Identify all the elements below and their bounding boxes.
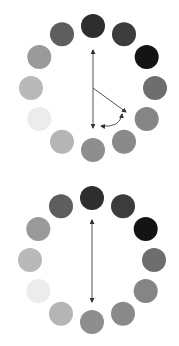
gray-dot-1: [112, 22, 136, 46]
gray-dot-3: [142, 248, 166, 272]
gray-dot-3: [143, 76, 167, 100]
color-wheel-diagram: [0, 0, 179, 346]
gray-dot-11: [49, 194, 73, 218]
gray-dot-5: [112, 130, 136, 154]
gray-dot-5: [111, 302, 135, 326]
bottom-clock-dial: [18, 186, 166, 334]
gray-dot-11: [50, 22, 74, 46]
gray-dot-1: [111, 194, 135, 218]
gray-dot-7: [49, 302, 73, 326]
gray-dot-6: [80, 310, 104, 334]
gray-dot-8: [26, 279, 50, 303]
gray-dot-8: [27, 107, 51, 131]
gray-dot-9: [18, 248, 42, 272]
gray-dot-4: [135, 107, 159, 131]
gray-dot-0: [80, 186, 104, 210]
gray-dot-0: [81, 14, 105, 38]
diagonal-arrow: [93, 88, 126, 112]
gray-dot-2: [134, 217, 158, 241]
top-clock-dial: [19, 14, 167, 162]
gray-dot-6: [81, 138, 105, 162]
gray-dot-7: [50, 130, 74, 154]
gray-dot-10: [27, 45, 51, 69]
curved-double-arrow: [101, 114, 122, 126]
gray-dot-9: [19, 76, 43, 100]
gray-dot-2: [135, 45, 159, 69]
gray-dot-4: [134, 279, 158, 303]
gray-dot-10: [26, 217, 50, 241]
